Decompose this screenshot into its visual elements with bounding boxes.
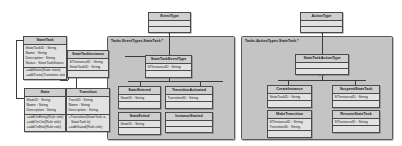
class-state-task-instance-title: StateTaskInstance — [68, 51, 108, 59]
class-state-operations: +addOnEntry(Rule role) +addOnOut(Rule ro… — [25, 115, 65, 132]
connector-actiontype-bus — [278, 80, 366, 81]
class-state-task-instance-attributes: STInstanceID : String StateTaskID : Stri… — [68, 59, 108, 72]
attribute-row: Status : StateTaskStatus — [25, 61, 64, 66]
class-instance-started[interactable]: InstanceStarted — [165, 112, 213, 133]
attribute-row: STInstanceID : String — [147, 65, 189, 70]
class-state-task-instance-operations — [68, 71, 108, 76]
attribute-row: TransitionID : String — [269, 125, 309, 130]
attribute-row: STInstanceID : String — [334, 95, 377, 100]
class-transition-attributes: TransID : String Name : String Descripti… — [67, 97, 109, 115]
class-make-transition-title: MakeTransition — [268, 111, 311, 119]
class-state-exited-attributes: StateID : String — [119, 121, 160, 129]
class-state-task-attributes: StateTaskID : String Name : String Descr… — [24, 45, 66, 68]
class-state-entered[interactable]: StateEntered StateID : String — [118, 86, 161, 109]
class-transition-operations: +Transition(StateTask a, StateTask b) +a… — [67, 115, 109, 132]
attribute-row: StateTaskID : String — [269, 95, 309, 100]
class-state-exited-operations — [119, 128, 160, 133]
operation-row: +addGuard(Rule role) — [68, 125, 107, 130]
class-event-type[interactable]: EventType — [148, 12, 191, 33]
class-resume-state-task-operations — [333, 126, 379, 131]
operation-row: +addTrans(Transition state) — [25, 73, 64, 78]
class-transition-activated-operations — [166, 102, 212, 107]
class-state[interactable]: State StateID : String Name : String Des… — [24, 88, 66, 132]
attribute-row: Description : String — [26, 108, 63, 113]
class-state-task-action-type-title: StateTaskActionType — [296, 55, 348, 63]
connector-statetask-spine — [16, 40, 17, 98]
operation-row: +addOnExit(Rule role) — [26, 125, 63, 130]
package-event-types-label: Tasks.EventTypes.StateTask.* — [111, 39, 163, 43]
class-state-exited-title: StateExited — [119, 113, 160, 121]
class-instance-started-title: InstanceStarted — [166, 113, 212, 121]
attribute-row: STInstanceID : String — [69, 60, 106, 65]
class-transition-title: Transition — [67, 89, 109, 97]
class-state-task-action-type[interactable]: StateTaskActionType — [295, 54, 349, 75]
package-action-types-label: Tasks.ActionTypes.StateTask.* — [245, 39, 299, 43]
attribute-row: StateTaskID : String — [69, 65, 106, 70]
class-state-task-instance[interactable]: StateTaskInstance STInstanceID : String … — [67, 50, 109, 78]
class-make-transition-operations — [268, 131, 311, 136]
class-state-task-action-type-operations — [296, 69, 348, 74]
class-transition[interactable]: Transition TransID : String Name : Strin… — [66, 88, 110, 132]
class-transition-activated-attributes: TransitionID : String — [166, 95, 212, 103]
class-make-transition[interactable]: MakeTransition STInstanceID : String Tra… — [267, 110, 312, 138]
attribute-row: Description : String — [68, 108, 107, 113]
class-state-entered-attributes: StateID : String — [119, 95, 160, 103]
class-create-instance-operations — [268, 101, 311, 106]
class-instance-started-operations — [166, 127, 212, 132]
class-make-transition-attributes: STInstanceID : String TransitionID : Str… — [268, 119, 311, 132]
class-event-type-operations — [149, 27, 190, 32]
class-suspend-state-task[interactable]: SuspendStateTask STInstanceID : String — [332, 85, 380, 108]
class-create-instance-title: CreateInstance — [268, 86, 311, 94]
class-state-task[interactable]: StateTask StateTaskID : String Name : St… — [23, 36, 67, 80]
class-suspend-state-task-title: SuspendStateTask — [333, 86, 379, 94]
attribute-row: STInstanceID : String — [334, 120, 377, 125]
class-transition-activated[interactable]: TransitionActivated TransitionID : Strin… — [165, 86, 213, 109]
class-resume-state-task[interactable]: ResumeStateTask STInstanceID : String — [332, 110, 380, 133]
class-state-task-operations: +addState(State state) +addTrans(Transit… — [24, 68, 66, 80]
class-state-exited[interactable]: StateExited StateID : String — [118, 112, 161, 135]
class-state-task-event-type[interactable]: StateTaskEventType STInstanceID : String — [145, 55, 192, 78]
class-state-task-event-type-title: StateTaskEventType — [146, 56, 191, 64]
class-event-type-title: EventType — [149, 13, 190, 21]
class-state-task-event-type-attributes: STInstanceID : String — [146, 64, 191, 72]
class-resume-state-task-attributes: STInstanceID : String — [333, 119, 379, 127]
attribute-row: StateID : String — [120, 122, 158, 127]
class-state-task-title: StateTask — [24, 37, 66, 45]
connector-eventtype-bus — [128, 81, 223, 82]
class-create-instance[interactable]: CreateInstance StateTaskID : String — [267, 85, 312, 108]
class-create-instance-attributes: StateTaskID : String — [268, 94, 311, 102]
class-action-type-operations — [301, 27, 342, 32]
class-action-type[interactable]: ActionType — [300, 12, 343, 33]
class-resume-state-task-title: ResumeStateTask — [333, 111, 379, 119]
attribute-row: StateID : String — [120, 96, 158, 101]
connector-state-link — [16, 98, 24, 99]
uml-class-diagram: { "diagram": { "kind": "uml-class-diagra… — [0, 0, 402, 146]
class-suspend-state-task-operations — [333, 101, 379, 106]
class-state-entered-title: StateEntered — [119, 87, 160, 95]
class-state-attributes: StateID : String Name : String Descripti… — [25, 97, 65, 115]
class-transition-activated-title: TransitionActivated — [166, 87, 212, 95]
class-suspend-state-task-attributes: STInstanceID : String — [333, 94, 379, 102]
class-state-task-event-type-operations — [146, 71, 191, 76]
class-state-title: State — [25, 89, 65, 97]
class-state-entered-operations — [119, 102, 160, 107]
attribute-row: TransitionID : String — [167, 96, 210, 101]
class-action-type-title: ActionType — [301, 13, 342, 21]
